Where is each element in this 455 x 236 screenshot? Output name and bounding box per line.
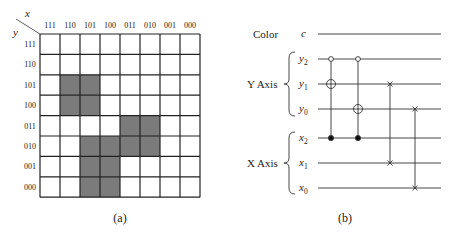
- row-label: 001: [24, 162, 36, 171]
- shaded-cell: [80, 177, 100, 197]
- row-label: 101: [24, 81, 36, 90]
- wire-label-x1: x1: [298, 156, 308, 171]
- y-axis-group-label: Y Axis: [247, 78, 277, 90]
- y-axis-brace-icon: [284, 52, 295, 116]
- column-label: 110: [64, 21, 76, 30]
- shaded-cell: [100, 156, 120, 176]
- panel-b: Color Y Axis X Axis c y2 y1 y0 x2 x1 x0: [247, 27, 441, 225]
- shaded-cell: [80, 136, 100, 156]
- circuit-wires: [318, 34, 441, 188]
- wire-label-y1: y1: [298, 77, 308, 92]
- column-label: 100: [104, 21, 116, 30]
- column-label: 000: [184, 21, 196, 30]
- figure: x y 111 110 101 100 011 010 001 000 111 …: [0, 0, 455, 236]
- x-axis-brace-icon: [284, 132, 295, 194]
- wire-label-x2: x2: [298, 131, 308, 146]
- filled-control-icon: [355, 135, 360, 140]
- shaded-cell: [140, 136, 160, 156]
- wire-label-y0: y0: [298, 102, 308, 117]
- wire-label-y2: y2: [298, 52, 308, 67]
- filled-control-icon: [328, 135, 333, 140]
- open-control-icon: [356, 57, 361, 62]
- x-axis-label: x: [24, 7, 30, 19]
- shaded-cell: [140, 116, 160, 136]
- column-label: 111: [44, 21, 55, 30]
- gate-cnot-1: [327, 57, 336, 141]
- row-label: 000: [24, 183, 36, 192]
- column-label: 101: [84, 21, 96, 30]
- gate-cnot-2: [354, 57, 363, 141]
- row-label: 110: [24, 60, 36, 69]
- row-label: 011: [24, 122, 36, 131]
- column-label: 011: [124, 21, 136, 30]
- wire-label-c: c: [301, 27, 306, 39]
- shaded-cell: [60, 95, 80, 115]
- shaded-cell: [80, 75, 100, 95]
- shaded-cell: [100, 177, 120, 197]
- color-group-label: Color: [253, 28, 278, 40]
- shaded-cell: [80, 156, 100, 176]
- row-label: 010: [24, 142, 36, 151]
- axis-corner-diagonal: [16, 19, 40, 34]
- panel-a: x y 111 110 101 100 011 010 001 000 111 …: [12, 7, 200, 225]
- shaded-cell: [80, 95, 100, 115]
- row-label: 100: [24, 101, 36, 110]
- shaded-cell: [120, 116, 140, 136]
- gate-swap-2: [413, 107, 418, 191]
- shaded-cell: [60, 75, 80, 95]
- column-label: 001: [164, 21, 176, 30]
- shaded-cell: [120, 136, 140, 156]
- column-label: 010: [144, 21, 156, 30]
- gate-swap-1: [388, 82, 393, 166]
- row-labels: 111 110 101 100 011 010 001 000: [24, 40, 36, 192]
- wire-label-x0: x0: [298, 181, 308, 196]
- y-axis-label: y: [12, 26, 18, 38]
- row-label: 111: [24, 40, 35, 49]
- caption-b: (b): [338, 211, 352, 225]
- kmap-grid: [40, 34, 200, 197]
- column-labels: 111 110 101 100 011 010 001 000: [44, 21, 196, 30]
- shaded-cell: [100, 136, 120, 156]
- x-axis-group-label: X Axis: [247, 157, 278, 169]
- caption-a: (a): [113, 211, 126, 225]
- open-control-icon: [329, 57, 334, 62]
